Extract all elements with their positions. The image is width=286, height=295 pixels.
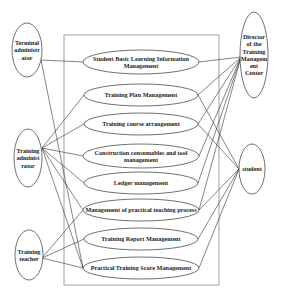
- association-director-uc3: [198, 57, 241, 124]
- actor-label: Training: [18, 248, 42, 255]
- use-case-uc5: Ledger management: [84, 172, 198, 194]
- use-case-label: Training course arrangement: [102, 120, 180, 127]
- actor-label: Director: [243, 33, 265, 40]
- use-case-uc6: Management of practical teaching process: [83, 199, 199, 221]
- association-training_admin-uc5: [42, 148, 84, 183]
- association-student-uc2: [198, 95, 239, 169]
- association-training_admin-uc6: [42, 148, 83, 210]
- actor-label: ent: [250, 62, 259, 69]
- actor-label: Managem: [241, 55, 268, 62]
- actor-training_admin: Trainingadministrator: [14, 129, 42, 187]
- use-case-uc2: Training Plan Management: [84, 84, 198, 106]
- actor-label: Center: [245, 69, 263, 76]
- association-terminal_admin-uc1: [41, 60, 83, 62]
- use-case-label: Management: [124, 62, 160, 69]
- actor-training_teacher: Trainingteacher: [15, 230, 43, 280]
- association-director-uc4: [199, 57, 241, 156]
- use-case-label: Training Report Management: [101, 235, 181, 242]
- use-case-uc7: Training Report Management: [84, 228, 198, 250]
- actor-label: student: [242, 165, 263, 172]
- actor-label: Training: [17, 147, 41, 154]
- actor-director: Directorof theTrainingManagementCenter: [240, 12, 268, 98]
- actor-label: rator: [21, 162, 35, 169]
- association-training_admin-uc3: [42, 124, 84, 148]
- actor-label: administr: [14, 46, 40, 53]
- use-case-label: Construction consumables and tool: [95, 149, 188, 156]
- actor-student: student: [239, 144, 265, 194]
- use-case-uc1: Student Basic Learning InformationManage…: [83, 50, 199, 74]
- use-case-diagram: Student Basic Learning InformationManage…: [0, 0, 286, 295]
- actor-terminal_admin: Terminaladministrator: [12, 23, 42, 77]
- association-director-uc6: [199, 57, 241, 210]
- use-case-label: Student Basic Learning Information: [93, 55, 190, 62]
- use-case-uc4: Construction consumables and toolmanagem…: [83, 144, 199, 168]
- use-cases: Student Basic Learning InformationManage…: [83, 50, 199, 279]
- use-case-label: management: [124, 156, 159, 163]
- use-case-label: Management of practical teaching process: [85, 206, 197, 213]
- use-case-label: Practical Training Score Management: [91, 264, 192, 271]
- actor-label: Terminal: [15, 39, 39, 46]
- use-case-label: Training Plan Management: [105, 91, 179, 98]
- use-case-uc8: Practical Training Score Management: [83, 257, 199, 279]
- association-student-uc7: [198, 169, 239, 239]
- actor-label: ator: [22, 54, 33, 61]
- association-student-uc3: [198, 124, 239, 169]
- association-training_admin-uc4: [42, 148, 83, 156]
- actor-label: teacher: [19, 255, 39, 262]
- actor-label: of the: [247, 40, 262, 47]
- use-case-uc3: Training course arrangement: [84, 113, 198, 135]
- use-case-label: Ledger management: [114, 179, 169, 186]
- actor-label: Training: [243, 48, 267, 55]
- association-training_teacher-uc7: [42, 239, 84, 258]
- association-training_admin-uc2: [42, 95, 84, 148]
- association-training_teacher-uc8: [42, 258, 83, 268]
- association-director-uc1: [199, 57, 241, 62]
- actor-label: administ: [16, 154, 40, 161]
